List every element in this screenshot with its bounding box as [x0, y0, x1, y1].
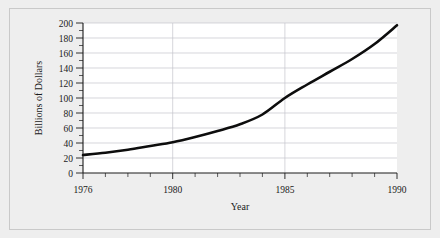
x-axis-title: Year: [231, 201, 250, 212]
y-tick-label: 100: [59, 94, 74, 104]
x-tick-label: 1980: [163, 185, 182, 195]
y-tick-label: 80: [64, 109, 74, 119]
y-tick-label: 0: [68, 169, 73, 179]
y-tick-label: 60: [64, 124, 74, 134]
figure-root: 200 180 160 140 120 100 80 60 40 20 0 19…: [0, 0, 440, 238]
line-chart: 200 180 160 140 120 100 80 60 40 20 0 19…: [0, 0, 440, 238]
y-axis-title: Billions of Dollars: [33, 61, 44, 136]
y-tick-label: 120: [59, 79, 74, 89]
y-axis-ticks: [76, 23, 83, 173]
x-axis-ticks: [83, 173, 397, 179]
y-tick-label: 20: [64, 154, 74, 164]
y-tick-label: 160: [59, 49, 74, 59]
x-tick-label: 1990: [388, 185, 407, 195]
y-tick-label: 180: [59, 34, 74, 44]
y-tick-label: 140: [59, 64, 74, 74]
x-tick-labels: 1976 1980 1985 1990: [74, 185, 407, 195]
x-tick-label: 1976: [74, 185, 93, 195]
y-tick-label: 200: [59, 19, 74, 29]
y-tick-labels: 200 180 160 140 120 100 80 60 40 20 0: [59, 19, 74, 179]
x-tick-label: 1985: [275, 185, 294, 195]
y-tick-label: 40: [64, 139, 74, 149]
